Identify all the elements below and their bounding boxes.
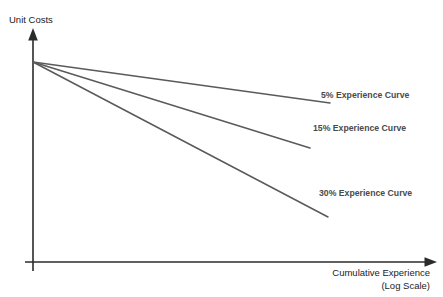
y-axis-arrowhead-icon — [28, 28, 38, 41]
x-axis-group — [25, 257, 437, 267]
x-axis-label-line1: Cumulative Experience — [332, 267, 430, 278]
series-label-15-percent: 15% Experience Curve — [313, 123, 406, 133]
y-axis-label: Unit Costs — [9, 14, 53, 25]
series-lines-group — [33, 62, 330, 217]
x-axis-label-line2: (Log Scale) — [381, 280, 430, 291]
x-axis-arrowhead-icon — [425, 257, 438, 267]
series-label-5-percent: 5% Experience Curve — [321, 90, 410, 100]
chart-svg-canvas: Unit Costs Cumulative Experience (Log Sc… — [0, 0, 443, 297]
experience-curve-chart: Unit Costs Cumulative Experience (Log Sc… — [0, 0, 443, 297]
series-line-5-percent — [33, 62, 330, 103]
series-label-30-percent: 30% Experience Curve — [319, 188, 412, 198]
